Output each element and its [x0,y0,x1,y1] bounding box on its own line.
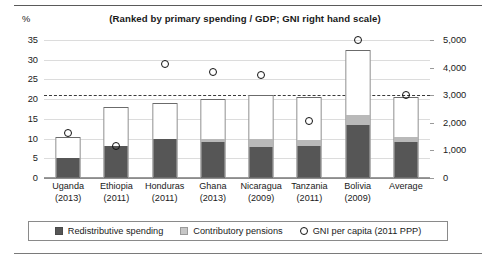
bar-slot [285,40,333,178]
y-tick-mark-right [430,68,434,69]
bar-slot [334,40,382,178]
bottom-divider [14,253,482,254]
y-tick-label-right: 1,000 [443,145,466,155]
stacked-bar[interactable] [56,137,81,178]
legend-item[interactable]: Contributory pensions [180,226,282,236]
x-axis-label: Ghana(2013) [189,181,237,211]
x-axis-label: Nicaragua(2009) [237,181,285,211]
stacked-bar[interactable] [152,103,177,178]
legend-label: GNI per capita (2011 PPP) [313,226,422,236]
bar-segment-redistributive[interactable] [394,142,417,177]
x-axis-year: (2011) [92,193,140,205]
gni-marker[interactable] [161,60,169,68]
x-axis-year: (2009) [334,193,382,205]
y-axis-unit-label: % [22,14,30,24]
bar-segment-contributory-pensions[interactable] [250,139,273,147]
y-tick-label-left: 35 [28,35,38,45]
x-axis-country-name: Nicaragua [240,181,281,191]
bar-group [44,40,430,178]
x-axis-year: (2013) [189,193,237,205]
legend-label: Redistributive spending [68,226,164,236]
gni-marker[interactable] [354,36,362,44]
y-tick-mark-right [430,178,434,179]
top-divider [14,5,482,6]
bar-segment-other-spending[interactable] [201,100,224,139]
bar-segment-other-spending[interactable] [57,138,80,159]
x-axis-country-name: Bolivia [344,181,371,191]
chart-title: (Ranked by primary spending / GDP; GNI r… [60,13,430,24]
x-axis-country-name: Tanzania [291,181,327,191]
bar-slot [44,40,92,178]
bar-segment-redistributive[interactable] [346,125,369,177]
bar-segment-other-spending[interactable] [394,98,417,136]
x-axis-country-name: Ethiopia [100,181,133,191]
y-tick-label-right: 4,000 [443,63,466,73]
x-axis-year: (2011) [141,193,189,205]
y-tick-label-right: 2,000 [443,118,466,128]
x-axis-country-name: Honduras [145,181,184,191]
x-axis-country-name: Uganda [52,181,84,191]
x-axis-label: Average [382,181,430,211]
y-tick-label-left: 0 [33,173,38,183]
bar-segment-redistributive[interactable] [105,146,128,177]
y-tick-label-right: 5,000 [443,35,466,45]
y-tick-mark-right [430,95,434,96]
y-tick-label-left: 25 [28,74,38,84]
stacked-bar[interactable] [393,97,418,178]
chart-root: % (Ranked by primary spending / GDP; GNI… [0,0,493,258]
gridline [44,178,430,179]
x-axis-country-name: Average [389,181,423,191]
bar-slot [189,40,237,178]
x-axis-label: Honduras(2011) [141,181,189,211]
bar-segment-other-spending[interactable] [346,51,369,115]
y-tick-label-left: 30 [28,55,38,65]
y-tick-label-right: 3,000 [443,90,466,100]
y-tick-mark-right [430,123,434,124]
stacked-bar[interactable] [345,50,370,178]
x-axis-label: Tanzania(2011) [285,181,333,211]
y-tick-label-left: 10 [28,134,38,144]
y-tick-label-right: 0 [443,173,448,183]
y-tick-label-left: 20 [28,94,38,104]
y-tick-mark-right [430,40,434,41]
stacked-bar[interactable] [297,97,322,178]
bar-segment-other-spending[interactable] [105,108,128,146]
y-tick-label-left: 5 [33,153,38,163]
gni-marker[interactable] [209,68,217,76]
legend-swatch-dark-square-icon [55,227,63,235]
chart-legend: Redistributive spendingContributory pens… [28,221,448,241]
bar-segment-redistributive[interactable] [250,147,273,177]
y-tick-label-left: 15 [28,114,38,124]
stacked-bar[interactable] [249,95,274,178]
x-axis-label: Bolivia(2009) [334,181,382,211]
bar-segment-redistributive[interactable] [153,139,176,177]
x-axis-year: (2011) [285,193,333,205]
bar-segment-redistributive[interactable] [201,142,224,177]
gni-marker[interactable] [64,129,72,137]
bar-slot [92,40,140,178]
bar-segment-other-spending[interactable] [153,104,176,139]
y-tick-mark-right [430,150,434,151]
x-axis-year: (2009) [237,193,285,205]
x-axis-label: Uganda(2013) [44,181,92,211]
bar-slot [382,40,430,178]
bar-slot [237,40,285,178]
x-axis-year: (2013) [44,193,92,205]
legend-swatch-open-circle-icon [300,227,308,235]
x-axis-country-name: Ghana [199,181,226,191]
bar-segment-other-spending[interactable] [250,96,273,138]
x-axis-labels: Uganda(2013)Ethiopia(2011)Honduras(2011)… [44,181,430,211]
legend-item[interactable]: GNI per capita (2011 PPP) [300,226,422,236]
legend-item[interactable]: Redistributive spending [55,226,164,236]
bar-segment-redistributive[interactable] [57,158,80,177]
legend-swatch-light-square-icon [180,227,188,235]
bar-segment-contributory-pensions[interactable] [346,115,369,125]
plot-area: 05101520253035 01,0002,0003,0004,0005,00… [44,40,430,178]
stacked-bar[interactable] [200,99,225,178]
bar-segment-redistributive[interactable] [298,146,321,177]
x-axis-label: Ethiopia(2011) [92,181,140,211]
legend-label: Contributory pensions [193,226,282,236]
